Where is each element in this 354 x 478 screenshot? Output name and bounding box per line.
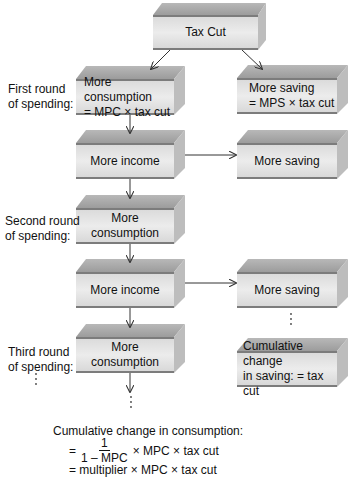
fraction: 1 1 – MPC	[79, 437, 130, 465]
first-round-line2: of spending:	[8, 97, 73, 112]
first-saving-box: More saving = MPS × tax cut	[237, 78, 337, 114]
formula-line-2: = multiplier × MPC × tax cut	[69, 463, 217, 478]
first-saving-line2: = MPS × tax cut	[249, 96, 334, 111]
income-2-box: More income	[76, 272, 174, 308]
tax-cut-box: Tax Cut	[153, 15, 258, 50]
third-consumption-label: More consumption	[76, 340, 174, 370]
first-consumption-box: More consumption = MPC × tax cut	[76, 79, 174, 115]
third-round-line2: of spending:	[8, 360, 73, 375]
tax-cut-label: Tax Cut	[185, 25, 226, 40]
third-round-line1: Third round	[8, 345, 73, 360]
saving-2-box: More saving	[237, 272, 337, 308]
second-consumption-label: More consumption	[76, 211, 174, 241]
income-2-label: More income	[90, 283, 159, 298]
equals-sign: =	[69, 444, 76, 459]
fraction-numerator: 1	[99, 437, 110, 451]
second-consumption-box: More consumption	[76, 208, 174, 244]
cumulative-saving-line1: Cumulative change	[243, 339, 337, 369]
first-round-line1: First round	[8, 82, 73, 97]
third-consumption-box: More consumption	[76, 337, 174, 373]
third-round-label: Third round of spending:	[8, 345, 73, 375]
cumulative-saving-line2: in saving: = tax cut	[243, 369, 337, 399]
formula-line1-suffix: × MPC × tax cut	[133, 444, 219, 459]
first-round-label: First round of spending:	[8, 82, 73, 112]
formula-line-1: = 1 1 – MPC × MPC × tax cut	[69, 437, 219, 465]
income-1-box: More income	[76, 143, 174, 179]
first-consumption-line1: More consumption	[84, 75, 174, 105]
income-1-label: More income	[90, 154, 159, 169]
cumulative-saving-box: Cumulative change in saving: = tax cut	[237, 351, 337, 387]
first-consumption-line2: = MPC × tax cut	[84, 105, 170, 120]
first-saving-line1: More saving	[249, 81, 314, 96]
saving-1-label: More saving	[254, 154, 319, 169]
second-round-line1: Second round	[5, 214, 80, 229]
saving-2-label: More saving	[254, 283, 319, 298]
saving-1-box: More saving	[237, 143, 337, 179]
second-round-label: Second round of spending:	[5, 214, 80, 244]
second-round-line2: of spending:	[5, 229, 80, 244]
